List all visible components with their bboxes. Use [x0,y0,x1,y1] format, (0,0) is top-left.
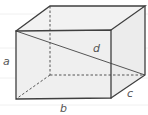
label-d: d [93,42,101,55]
label-c: c [127,87,133,100]
cuboid-diagram: a d b c [0,0,148,115]
label-a: a [3,55,10,68]
label-b: b [60,102,67,115]
